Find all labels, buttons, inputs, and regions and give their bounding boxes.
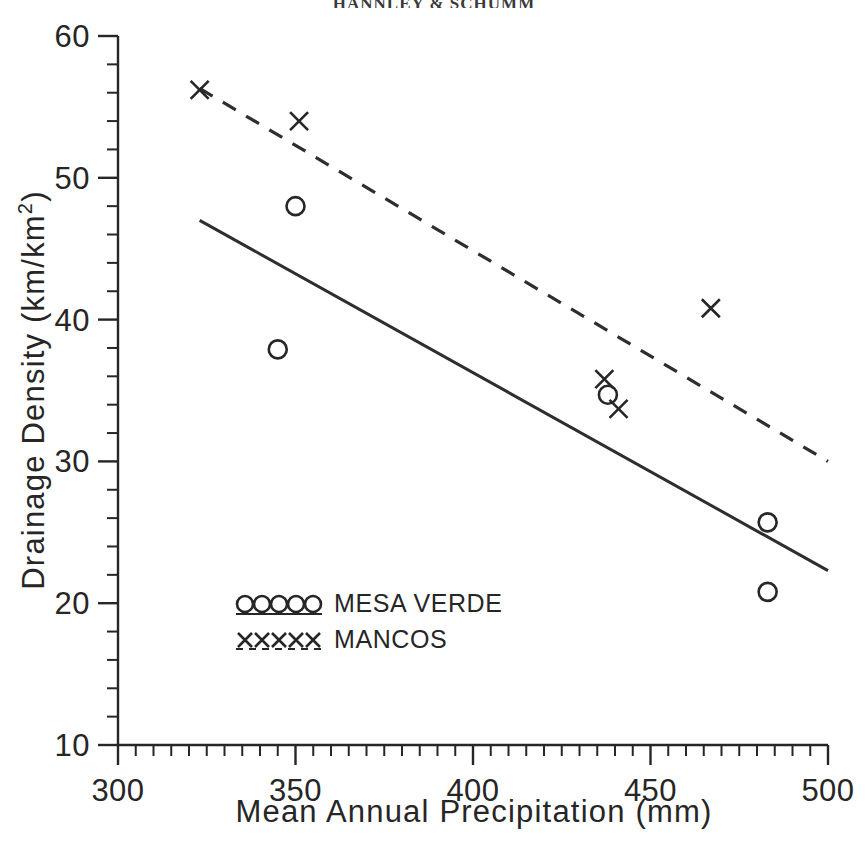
y-tick-label: 30 [55, 444, 90, 479]
data-point-mancos [702, 299, 720, 317]
data-points [191, 81, 777, 601]
y-tick-label: 50 [55, 161, 90, 196]
legend-marker-x [289, 633, 303, 647]
x-axis-ticks [118, 745, 828, 765]
legend-marker-circle [271, 596, 287, 612]
data-point-mesa-verde [759, 513, 777, 531]
x-tick-label: 500 [801, 773, 854, 808]
legend-marker-circle [305, 596, 321, 612]
data-point-mesa-verde [759, 583, 777, 601]
legend-marker-circle [254, 596, 270, 612]
data-point-mancos [191, 81, 209, 99]
legend-marker-circle [237, 596, 253, 612]
scatter-plot: 300350400450500 102030405060 Mean Annual… [0, 0, 868, 848]
svg-text:Drainage Density (km/km2): Drainage Density (km/km2) [14, 190, 51, 589]
data-point-mesa-verde [287, 197, 305, 215]
legend-label-mancos: MANCOS [334, 625, 447, 653]
fit-line-mancos [200, 88, 828, 461]
y-axis-title: Drainage Density (km/km2) [14, 190, 51, 589]
data-point-mancos [610, 400, 628, 418]
figure-container: HANNLEY & SCHUMM 300350400450500 1020304… [0, 0, 868, 848]
legend-marker-circle [288, 596, 304, 612]
data-point-mancos [290, 112, 308, 130]
y-axis-title-main: Drainage Density (km/km [16, 214, 51, 590]
legend-marker-x [306, 633, 320, 647]
y-tick-label: 60 [55, 19, 90, 54]
legend-marker-x [272, 633, 286, 647]
y-tick-label: 10 [55, 728, 90, 763]
y-axis-title-close: ) [16, 190, 51, 202]
axes-group [118, 36, 828, 745]
fit-line-mesa-verde [200, 220, 828, 570]
data-point-mesa-verde [269, 340, 287, 358]
x-tick-label: 300 [91, 773, 144, 808]
legend-marker-x [255, 633, 269, 647]
y-tick-label: 40 [55, 303, 90, 338]
regression-lines [200, 88, 828, 570]
x-axis-title: Mean Annual Precipitation (mm) [235, 794, 712, 829]
legend-marker-x [238, 633, 252, 647]
legend [236, 596, 322, 649]
axis-spine [118, 36, 828, 745]
y-tick-label: 20 [55, 586, 90, 621]
y-axis-title-exponent: 2 [14, 202, 36, 214]
legend-label-mesa-verde: MESA VERDE [334, 589, 503, 617]
data-point-mesa-verde [599, 386, 617, 404]
y-axis-ticks [98, 36, 118, 745]
y-axis-tick-labels: 102030405060 [55, 19, 90, 763]
